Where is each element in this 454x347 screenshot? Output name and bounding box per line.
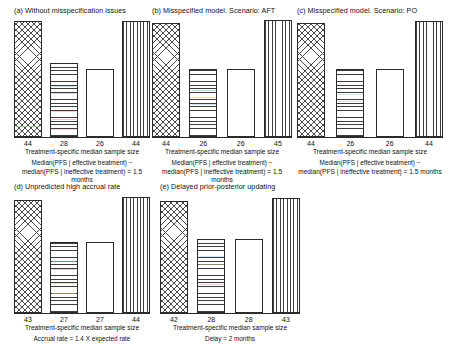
bar-4[interactable]: [122, 197, 150, 313]
panel-e-title: (e) Delayed prior-posterior updating: [160, 182, 300, 191]
bar-slot: [122, 197, 150, 313]
bar-4[interactable]: [272, 198, 300, 313]
panel-e-tick-labels: 42 28 28 43: [160, 315, 300, 324]
bar-1[interactable]: [297, 23, 325, 137]
bar-3[interactable]: [376, 69, 404, 137]
bar-slot: [336, 69, 364, 137]
panel-a-plot: 44 28 26 44 Treatment-specific median sa…: [14, 19, 150, 184]
tick-label: 27: [50, 315, 78, 324]
tick-label: 43: [272, 315, 300, 324]
bar-2[interactable]: [50, 242, 78, 313]
panel-a-title: (a) Without misspecification issues: [14, 6, 150, 15]
bar-3[interactable]: [227, 69, 255, 137]
tick-label: 28: [235, 315, 263, 324]
bar-slot: [14, 200, 42, 313]
panel-c-caption-line1: Median(PFS | effective treatment) −: [297, 159, 443, 167]
bar-2[interactable]: [189, 69, 217, 137]
tick-label: 28: [50, 139, 78, 148]
bar-2[interactable]: [50, 63, 78, 137]
panel-a: (a) Without misspecification issues: [14, 6, 150, 184]
bar-4[interactable]: [122, 21, 150, 137]
bar-3[interactable]: [235, 239, 263, 313]
panel-c-tick-labels: 44 26 26 44: [297, 139, 443, 148]
color-noise: [15, 22, 41, 136]
panel-e-axis-label: Treatment-specific median sample size: [160, 324, 300, 332]
tick-label: 44: [122, 315, 150, 324]
tick-label: 28: [197, 315, 225, 324]
bar-slot: [152, 23, 180, 137]
panel-e-caption-line1: Delay = 2 months: [160, 335, 300, 343]
bar-slot: [189, 69, 217, 137]
tick-label: 42: [160, 315, 188, 324]
panel-a-caption-line1: Median(PFS | effective treatment) −: [14, 159, 150, 167]
tick-label: 45: [264, 139, 292, 148]
panel-b-bars: [152, 19, 292, 137]
panel-b-caption-line1: Median(PFS | effective treatment) −: [152, 159, 292, 167]
tick-label: 43: [14, 315, 42, 324]
bar-slot: [14, 21, 42, 137]
color-noise: [337, 70, 363, 136]
panel-c-plot: 44 26 26 44 Treatment-specific median sa…: [297, 19, 443, 176]
panel-e: (e) Delayed prior-posterior updating: [160, 182, 300, 344]
bar-slot: [415, 21, 443, 137]
tick-label: 44: [122, 139, 150, 148]
x-axis: [160, 313, 300, 314]
bar-2[interactable]: [336, 69, 364, 137]
panel-c-caption-line2: median(PFS | ineffective treatment) = 1.…: [297, 168, 443, 176]
bar-slot: [227, 69, 255, 137]
tick-label: 26: [336, 139, 364, 148]
bar-4[interactable]: [264, 20, 292, 137]
bar-1[interactable]: [14, 21, 42, 137]
bar-1[interactable]: [160, 201, 188, 313]
bar-slot: [376, 69, 404, 137]
panel-d-tick-labels: 43 27 27 44: [14, 315, 150, 324]
panel-b-tick-labels: 44 26 26 45: [152, 139, 292, 148]
panel-b-title: (b) Misspecified model. Scenario: AFT: [152, 6, 292, 15]
panel-a-tick-labels: 44 28 26 44: [14, 139, 150, 148]
bar-slot: [197, 239, 225, 313]
color-noise: [198, 240, 224, 312]
bar-slot: [86, 69, 114, 137]
tick-label: 26: [189, 139, 217, 148]
x-axis: [14, 137, 150, 138]
panel-a-axis-label: Treatment-specific median sample size: [14, 148, 150, 156]
panel-e-bars: [160, 195, 300, 313]
bar-4[interactable]: [415, 21, 443, 137]
panel-d-title: (d) Unpredicted high accrual rate: [14, 182, 150, 191]
bar-slot: [272, 198, 300, 313]
panel-b: (b) Misspecified model. Scenario: AFT: [152, 6, 292, 184]
bar-2[interactable]: [197, 239, 225, 313]
tick-label: 26: [376, 139, 404, 148]
color-noise: [51, 64, 77, 136]
bar-slot: [86, 242, 114, 313]
panel-b-axis-label: Treatment-specific median sample size: [152, 148, 292, 156]
bar-slot: [235, 239, 263, 313]
tick-label: 26: [86, 139, 114, 148]
panel-d-bars: [14, 195, 150, 313]
panel-c-bars: [297, 19, 443, 137]
panel-c-title: (c) Misspecified model. Scenario: PO: [297, 6, 443, 15]
x-axis: [152, 137, 292, 138]
bar-3[interactable]: [86, 242, 114, 313]
tick-label: 44: [152, 139, 180, 148]
panel-c-axis-label: Treatment-specific median sample size: [297, 148, 443, 156]
bar-slot: [50, 63, 78, 137]
color-noise: [51, 243, 77, 312]
bar-3[interactable]: [86, 69, 114, 137]
panel-b-plot: 44 26 26 45 Treatment-specific median sa…: [152, 19, 292, 184]
bar-slot: [160, 201, 188, 313]
panel-d-caption-line1: Accrual rate = 1.4 X expected rate: [14, 335, 150, 343]
figure-canvas: (a) Without misspecification issues: [0, 0, 454, 347]
color-noise: [190, 70, 216, 136]
bar-slot: [297, 23, 325, 137]
bar-1[interactable]: [152, 23, 180, 137]
panel-a-bars: [14, 19, 150, 137]
tick-label: 27: [86, 315, 114, 324]
tick-label: 26: [227, 139, 255, 148]
panel-c: (c) Misspecified model. Scenario: PO: [297, 6, 443, 176]
panel-e-plot: 42 28 28 43 Treatment-specific median sa…: [160, 195, 300, 344]
x-axis: [14, 313, 150, 314]
bar-slot: [50, 242, 78, 313]
bar-1[interactable]: [14, 200, 42, 313]
tick-label: 44: [297, 139, 325, 148]
